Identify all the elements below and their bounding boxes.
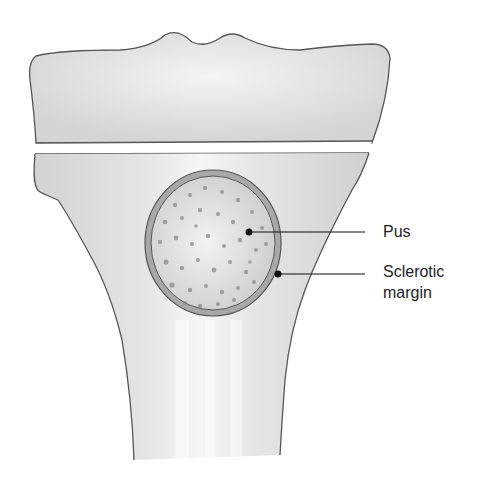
label-sclerotic-margin-line2: margin bbox=[383, 283, 432, 303]
pus-pointer-dot bbox=[246, 229, 253, 236]
abscess bbox=[145, 170, 281, 316]
epiphysis bbox=[30, 33, 390, 143]
label-pus: Pus bbox=[383, 222, 411, 242]
bone-illustration bbox=[0, 0, 487, 482]
label-sclerotic-margin-line1: Sclerotic bbox=[383, 262, 444, 282]
medullary-streaks bbox=[175, 320, 242, 460]
bone-abscess-diagram: Pus Sclerotic margin bbox=[0, 0, 487, 482]
pus-cavity bbox=[151, 176, 275, 310]
sclerotic-pointer-dot bbox=[275, 271, 282, 278]
